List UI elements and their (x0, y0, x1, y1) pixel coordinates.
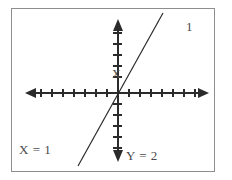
y-axis-down-arrowhead (113, 150, 123, 162)
x-value-annotation: X = 1 (19, 143, 51, 156)
top-right-annotation: 1 (186, 20, 193, 33)
y-axis-up-arrowhead (113, 19, 123, 31)
x-axis-left-arrowhead (25, 88, 36, 98)
y-axis-group (113, 24, 122, 157)
figure-container: 1 X X = 1 Y = 2 (0, 0, 232, 180)
x-axis-right-arrowhead (198, 88, 209, 98)
plotted-line (78, 13, 163, 166)
origin-x-annotation: X (112, 68, 121, 80)
y-value-annotation: Y = 2 (126, 149, 158, 162)
